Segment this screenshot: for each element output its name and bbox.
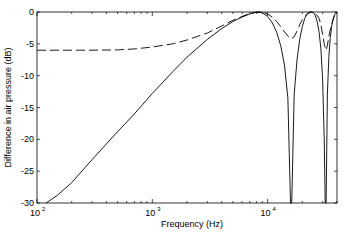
x-tick-exponent: 3 (157, 206, 161, 212)
x-axis: 102103104 (30, 12, 337, 218)
x-tick-label: 10 (261, 208, 271, 218)
x-tick-label: 10 (145, 208, 155, 218)
x-tick-label: 10 (30, 208, 40, 218)
y-tick-label: -25 (21, 166, 34, 176)
y-tick-label: 0 (29, 7, 34, 17)
x-axis-label: Frequency (Hz) (161, 219, 223, 229)
y-tick-label: -30 (21, 198, 34, 208)
plot-series (37, 12, 337, 203)
series-solid-line (46, 12, 337, 203)
x-tick-exponent: 4 (273, 206, 277, 212)
y-tick-label: -20 (21, 134, 34, 144)
line-chart: 0-5-10-15-20-25-30 102103104 Frequency (… (0, 0, 347, 239)
y-axis-label: Difference in air pressure (dB) (3, 48, 13, 168)
y-tick-label: -10 (21, 71, 34, 81)
series-dashed-line (37, 12, 337, 50)
y-tick-label: -15 (21, 103, 34, 113)
y-tick-label: -5 (26, 39, 34, 49)
x-tick-exponent: 2 (42, 206, 46, 212)
